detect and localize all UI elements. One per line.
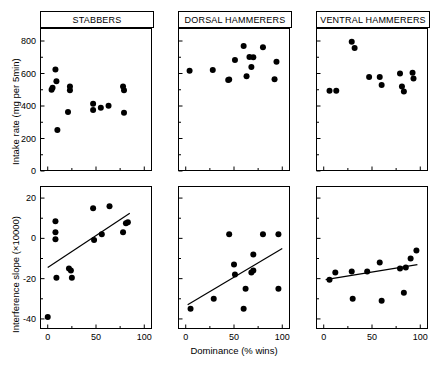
x-tick-col1-100: 100 xyxy=(275,332,290,342)
x-tick-col1-50: 50 xyxy=(229,332,239,342)
y-tick-bottom--40: -40 xyxy=(8,314,36,324)
x-axis-label-dominance: Dominance (% wins) xyxy=(190,345,277,356)
panel-title-label: STABBERS xyxy=(73,15,122,25)
y-tick-top-600: 600 xyxy=(8,69,36,79)
y-tick-top-400: 400 xyxy=(8,101,36,111)
y-tick-top-0: 0 xyxy=(8,166,36,176)
x-tick-col0-100: 100 xyxy=(137,332,152,342)
panel-title-ventral-hammerers: VENTRAL HAMMERERS xyxy=(316,11,430,28)
panel-title-label: VENTRAL HAMMERERS xyxy=(320,15,426,25)
scatter-panel-bottom-1 xyxy=(178,186,290,329)
y-tick-bottom-20: 20 xyxy=(8,193,36,203)
scatter-panel-bottom-0 xyxy=(40,186,152,329)
scatter-panel-top-1 xyxy=(178,28,290,171)
scatter-panel-top-0 xyxy=(40,28,152,171)
x-tick-col2-0: 0 xyxy=(321,332,326,342)
x-tick-col2-50: 50 xyxy=(367,332,377,342)
x-tick-col0-0: 0 xyxy=(45,332,50,342)
y-tick-bottom--20: -20 xyxy=(8,274,36,284)
x-tick-col2-100: 100 xyxy=(413,332,428,342)
scatter-panel-top-2 xyxy=(316,28,428,171)
panel-title-stabbers: STABBERS xyxy=(40,11,154,28)
panel-title-label: DORSAL HAMMERERS xyxy=(185,15,286,25)
scatter-panel-bottom-2 xyxy=(316,186,428,329)
panel-title-dorsal-hammerers: DORSAL HAMMERERS xyxy=(178,11,292,28)
figure-panel-matrix: STABBERS DORSAL HAMMERERS VENTRAL HAMMER… xyxy=(0,0,448,367)
y-tick-bottom-0: 0 xyxy=(8,233,36,243)
y-tick-top-800: 800 xyxy=(8,36,36,46)
x-tick-col1-0: 0 xyxy=(183,332,188,342)
y-tick-top-200: 200 xyxy=(8,134,36,144)
x-tick-col0-50: 50 xyxy=(91,332,101,342)
